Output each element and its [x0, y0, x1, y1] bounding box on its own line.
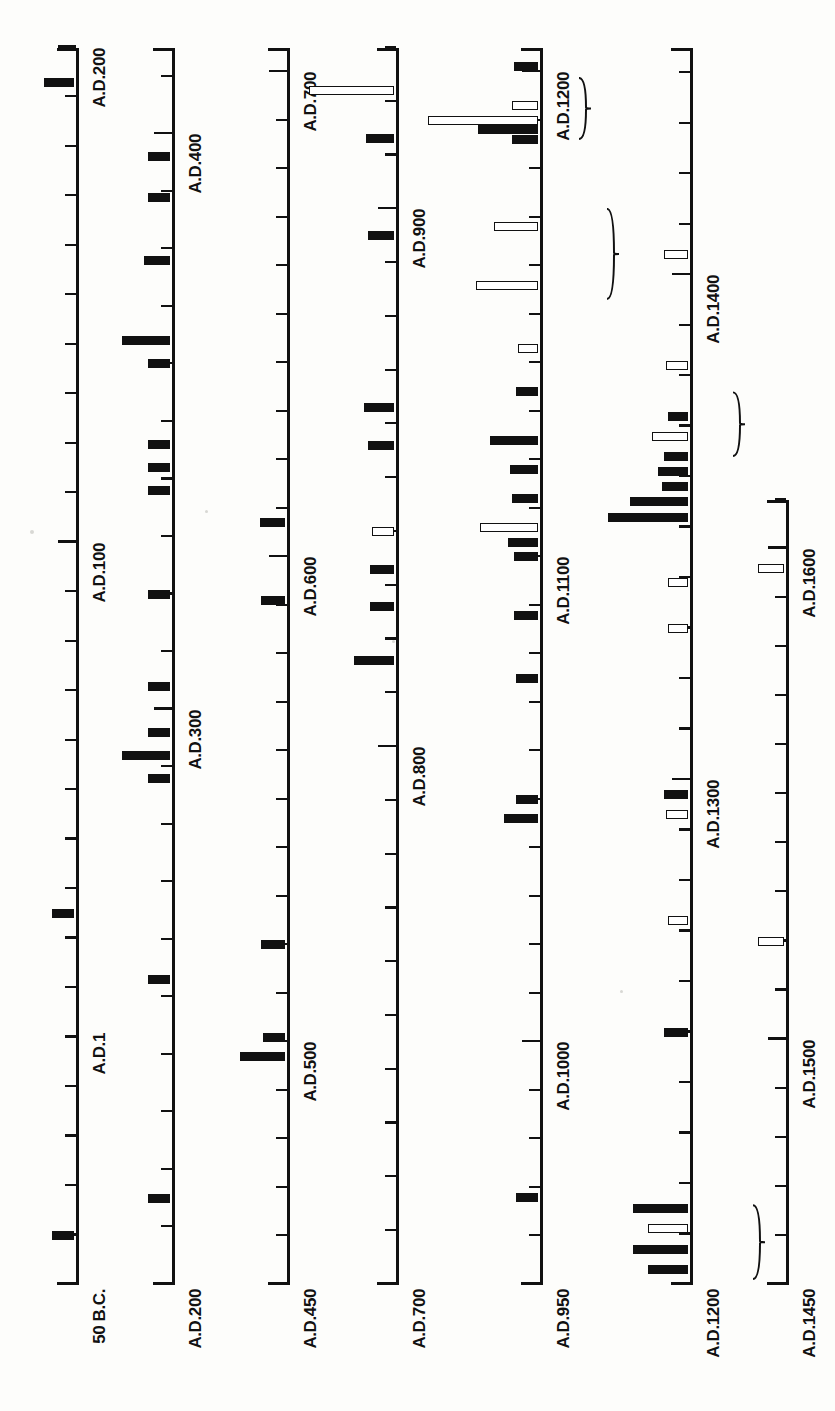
- axis-tick-minor: [276, 895, 287, 897]
- axis-tick-minor: [679, 1182, 690, 1184]
- bar-filled: [148, 193, 170, 202]
- axis-tick-minor: [161, 305, 172, 307]
- axis-tick-minor: [529, 458, 540, 460]
- axis-tick-minor: [775, 596, 786, 598]
- axis-tick-minor: [529, 895, 540, 897]
- axis-tick-major: [154, 1282, 172, 1285]
- bar-filled: [148, 359, 170, 368]
- brace-annotation: [732, 391, 746, 457]
- axis-tick-minor: [529, 604, 540, 606]
- axis-tick-minor: [161, 1110, 172, 1112]
- axis-major-label: A.D.500: [301, 1042, 321, 1102]
- bar-filled: [240, 1052, 285, 1061]
- axis-tick-minor: [161, 1225, 172, 1227]
- axis-tick-minor: [65, 838, 76, 840]
- axis-tick-minor: [529, 1089, 540, 1091]
- axis-major-label: A.D.1300: [704, 780, 724, 849]
- bar-filled: [478, 125, 538, 134]
- bar-hollow: [309, 86, 394, 95]
- bar-filled: [368, 231, 394, 240]
- axis-tick-minor: [65, 689, 76, 691]
- bar-hollow: [428, 116, 538, 125]
- brace-annotation: [606, 208, 620, 300]
- axis-end-cap: [153, 48, 172, 51]
- axis-major-label: A.D.200: [90, 48, 110, 108]
- axis-tick-minor: [65, 244, 76, 246]
- bar-filled: [516, 674, 538, 683]
- axis-tick-minor: [385, 1283, 396, 1285]
- bar-filled: [148, 728, 170, 737]
- axis-major-label: A.D.100: [90, 543, 110, 603]
- axis-tick-minor: [775, 1087, 786, 1089]
- axis-tick-minor: [385, 584, 396, 586]
- axis-tick-minor: [679, 425, 690, 427]
- axis-tick-minor: [679, 525, 690, 527]
- axis-tick-minor: [679, 879, 690, 881]
- bar-filled: [664, 452, 688, 461]
- axis-tick-minor: [385, 46, 396, 48]
- paper-speck: [620, 990, 623, 993]
- axis-tick-minor: [276, 1234, 287, 1236]
- axis-tick-minor: [276, 749, 287, 751]
- axis-tick-minor: [775, 694, 786, 696]
- bar-filled: [148, 774, 170, 783]
- bar-filled: [144, 256, 170, 265]
- axis-tick-minor: [65, 986, 76, 988]
- axis-tick-minor: [529, 992, 540, 994]
- brace-annotation: [578, 77, 592, 140]
- axis-major-label: A.D.1000: [554, 1042, 574, 1111]
- axis-tick-minor: [161, 420, 172, 422]
- axis-line: [396, 48, 399, 1285]
- axis-line: [76, 48, 79, 1285]
- paper-speck: [205, 510, 208, 513]
- axis-major-label: A.D.1200: [554, 72, 574, 141]
- axis-end-cap: [57, 48, 76, 51]
- bar-hollow: [668, 624, 688, 633]
- bar-hollow: [518, 344, 538, 353]
- axis-tick-minor: [276, 216, 287, 218]
- axis-tick-minor: [161, 880, 172, 882]
- axis-tick-minor: [65, 491, 76, 493]
- axis-tick-minor: [385, 1175, 396, 1177]
- bar-hollow: [494, 223, 538, 232]
- axis-start-label: A.D.1200: [704, 1289, 724, 1358]
- axis-tick-minor: [775, 645, 786, 647]
- axis-tick-minor: [679, 929, 690, 931]
- axis-tick-minor: [276, 992, 287, 994]
- axis-tick-major: [58, 540, 76, 543]
- axis-tick-minor: [529, 361, 540, 363]
- axis-end-cap: [671, 48, 690, 51]
- axis-tick-minor: [529, 1283, 540, 1285]
- bar-hollow: [668, 916, 688, 925]
- axis-tick-minor: [385, 153, 396, 155]
- axis-tick-minor: [385, 960, 396, 962]
- bar-filled: [148, 590, 170, 599]
- axis-tick-minor: [385, 1014, 396, 1016]
- axis-tick-minor: [679, 324, 690, 326]
- axis-tick-major: [154, 132, 172, 135]
- axis-tick-major: [672, 778, 690, 781]
- bar-filled: [662, 482, 688, 491]
- bar-hollow: [476, 281, 538, 290]
- axis-tick-minor: [529, 507, 540, 509]
- axis-tick-minor: [679, 71, 690, 73]
- axis-line: [287, 48, 290, 1285]
- axis-start-label: A.D.200: [186, 1289, 206, 1349]
- axis-major-label: A.D.600: [301, 557, 321, 617]
- axis-tick-minor: [529, 1186, 540, 1188]
- axis-tick-minor: [65, 1283, 76, 1285]
- axis-start-label: A.D.450: [301, 1289, 321, 1349]
- axis-tick-minor: [161, 650, 172, 652]
- axis-start-label: A.D.700: [410, 1289, 430, 1349]
- axis-tick-minor: [65, 293, 76, 295]
- axis-major-label: A.D.1100: [554, 557, 574, 625]
- bar-filled: [516, 387, 538, 396]
- brace-annotation: [752, 1204, 766, 1280]
- axis-tick-minor: [276, 1137, 287, 1139]
- axis-major-label: A.D.1400: [704, 275, 724, 344]
- bar-hollow: [512, 101, 538, 110]
- axis-tick-major: [768, 546, 786, 549]
- axis-tick-major: [378, 207, 396, 210]
- bar-hollow: [666, 361, 688, 370]
- bar-hollow: [652, 432, 688, 441]
